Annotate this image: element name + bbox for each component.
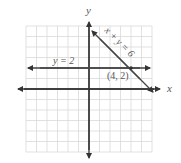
y-axis-label: y xyxy=(85,4,91,16)
intersection-point xyxy=(129,66,133,70)
intersection-label: (4, 2) xyxy=(107,70,129,82)
line-label-y-equals-2: y = 2 xyxy=(52,55,74,66)
x-axis-label: x xyxy=(166,82,172,94)
coordinate-plane: y x y = 2 x + y = 6 (4, 2) xyxy=(0,0,181,163)
line-label-x-plus-y-equals-6: x + y = 6 xyxy=(102,24,137,59)
